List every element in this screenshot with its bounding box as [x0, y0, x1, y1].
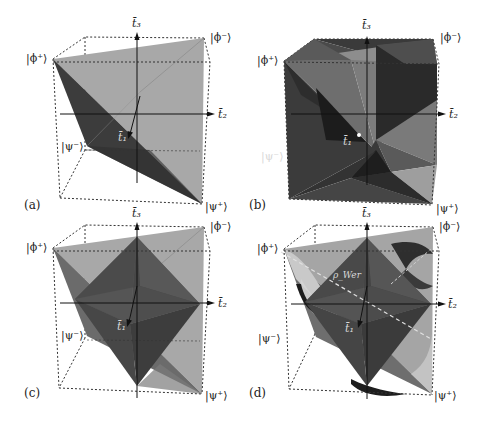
axis-label-t1: t̄₁	[118, 132, 127, 143]
vertex-label-psi-minus: |ψ⁻⟩	[61, 141, 83, 152]
vertex-label-phi-minus: |ϕ⁻⟩	[210, 32, 231, 43]
axis-label-t2: t̄₂	[218, 109, 227, 120]
vertex-label-psi-minus: |ψ⁻⟩	[61, 330, 83, 341]
vertex-label-phi-plus: |ϕ⁺⟩	[26, 53, 47, 64]
axis-label-t3: t̄₃	[362, 20, 371, 31]
vertex-label-psi-minus: |ψ⁻⟩	[258, 333, 280, 344]
vertex-label-psi-plus: |ψ⁺⟩	[436, 203, 458, 214]
axis-label-t1: t̄₁	[345, 323, 354, 334]
panel-c: |ϕ⁺⟩ |ϕ⁻⟩ |ψ⁻⟩ |ψ⁺⟩ t̄₃ t̄₂ t̄₁ (c)	[0, 224, 241, 448]
axis-label-t1: t̄₁	[117, 321, 126, 332]
axis-label-t3: t̄₃	[362, 208, 371, 219]
vertex-label-psi-plus: |ψ⁺⟩	[434, 390, 456, 401]
panel-d: |ϕ⁺⟩ |ϕ⁻⟩ |ψ⁻⟩ |ψ⁺⟩ t̄₃ t̄₂ t̄₁ ρ_Wer (d…	[241, 224, 482, 448]
panel-tag-b: (b)	[249, 198, 266, 212]
vertex-label-phi-plus: |ϕ⁺⟩	[26, 242, 47, 253]
panel-tag-c: (c)	[24, 386, 40, 400]
vertex-label-phi-minus: |ϕ⁻⟩	[439, 221, 460, 232]
vertex-label-phi-plus: |ϕ⁺⟩	[257, 55, 278, 66]
panel-tag-a: (a)	[24, 198, 41, 212]
vertex-label-phi-minus: |ϕ⁻⟩	[440, 32, 461, 43]
axis-label-t2: t̄₂	[218, 298, 227, 309]
panel-b: |ϕ⁺⟩ |ϕ⁻⟩ |ψ⁻⟩ |ψ⁺⟩ t̄₃ t̄₂ t̄₁ (b)	[241, 0, 482, 224]
axis-label-t2: t̄₂	[448, 299, 457, 310]
vertex-label-psi-plus: |ψ⁺⟩	[205, 390, 227, 401]
axis-label-t3: t̄₃	[132, 18, 141, 29]
octahedron-plot-c	[0, 224, 241, 448]
axis-label-t1: t̄₁	[343, 136, 352, 147]
tetrahedron-plot-a	[0, 0, 241, 224]
axis-label-t2: t̄₂	[449, 109, 458, 120]
panel-a: |ϕ⁺⟩ |ϕ⁻⟩ |ψ⁻⟩ |ψ⁺⟩ t̄₃ t̄₂ t̄₁ (a)	[0, 0, 241, 224]
werner-state-label: ρ_Wer	[333, 271, 361, 280]
vertex-label-psi-plus: |ψ⁺⟩	[205, 201, 227, 212]
axis-label-t3: t̄₃	[132, 208, 141, 219]
panel-tag-d: (d)	[249, 386, 266, 400]
vertex-label-phi-minus: |ϕ⁻⟩	[210, 221, 231, 232]
vertex-label-psi-minus: |ψ⁻⟩	[261, 151, 283, 162]
vertex-label-phi-plus: |ϕ⁺⟩	[257, 243, 278, 254]
